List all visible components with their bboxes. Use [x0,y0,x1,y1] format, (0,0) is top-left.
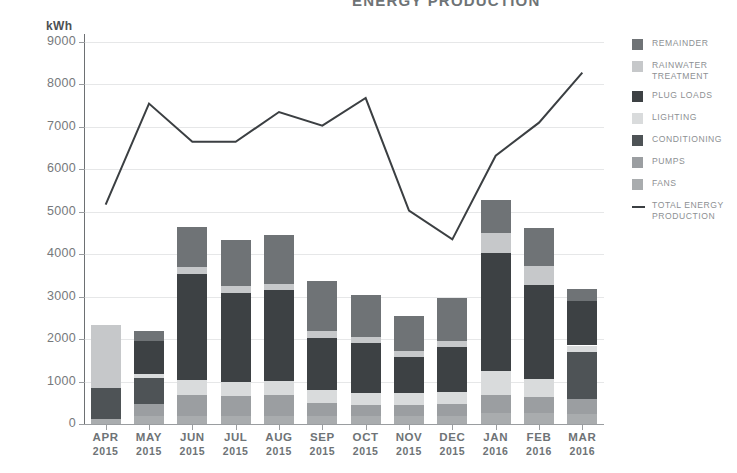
grid-line [84,424,604,425]
legend-label: CONDITIONING [652,134,737,145]
x-axis-tick-mark [149,424,150,430]
y-axis-tick-label: 7000 [26,119,76,133]
legend-item[interactable]: RAINWATER TREATMENT [632,60,737,81]
x-axis-month: OCT [353,431,379,443]
total-energy-line [84,42,604,424]
x-axis-tick-mark [279,424,280,430]
x-axis-month: FEB [527,431,552,443]
legend-swatch [632,179,643,190]
x-axis-month: DEC [439,431,465,443]
legend-item[interactable]: CONDITIONING [632,134,737,147]
chart-title: ENERGY PRODUCTION [352,0,652,9]
y-axis-tick-mark [79,339,85,340]
legend-swatch [632,61,643,72]
x-axis-month: APR [93,431,119,443]
legend-swatch [632,135,643,146]
y-axis-tick-mark [79,212,85,213]
y-axis-tick-mark [79,84,85,85]
legend-item[interactable]: PLUG LOADS [632,90,737,103]
x-axis-tick-label: MAR2016 [552,431,612,457]
y-axis-tick-label: 4000 [26,246,76,260]
y-axis-tick-label: 1000 [26,374,76,388]
legend-label: TOTAL ENERGY PRODUCTION [652,200,737,221]
y-axis-tick-label: 9000 [26,34,76,48]
y-axis-tick-label: 2000 [26,331,76,345]
legend-item[interactable]: REMAINDER [632,38,737,51]
legend-line-marker [632,206,645,208]
x-axis-month: MAR [568,431,596,443]
chart-container: ENERGY PRODUCTION kWh REMAINDERRAINWATER… [0,0,737,473]
y-axis-tick-label: 5000 [26,204,76,218]
line-series-total-energy [106,73,583,240]
x-axis-tick-mark [496,424,497,430]
legend-label: LIGHTING [652,112,737,123]
legend-item[interactable]: TOTAL ENERGY PRODUCTION [632,200,737,221]
y-axis-tick-mark [79,297,85,298]
y-axis-tick-label: 8000 [26,76,76,90]
x-axis-tick-mark [582,424,583,430]
x-axis-tick-mark [236,424,237,430]
x-axis-tick-mark [366,424,367,430]
y-axis-tick-label: 6000 [26,161,76,175]
x-axis-month: JUL [224,431,248,443]
x-axis-year: 2016 [552,445,612,457]
legend-swatch [632,39,643,50]
y-axis-tick-mark [79,42,85,43]
legend-label: RAINWATER TREATMENT [652,60,737,81]
legend-label: PUMPS [652,156,737,167]
y-axis-tick-mark [79,382,85,383]
x-axis-tick-mark [322,424,323,430]
x-axis-tick-mark [452,424,453,430]
x-axis-tick-mark [409,424,410,430]
legend-item[interactable]: PUMPS [632,156,737,169]
legend-label: REMAINDER [652,38,737,49]
legend-label: FANS [652,178,737,189]
x-axis-month: AUG [265,431,292,443]
legend-swatch [632,91,643,102]
x-axis-tick-mark [106,424,107,430]
x-axis-tick-mark [539,424,540,430]
y-axis-tick-mark [79,169,85,170]
y-axis-tick-mark [79,127,85,128]
y-axis-label: kWh [46,19,73,33]
legend-label: PLUG LOADS [652,90,737,101]
x-axis-month: JUN [180,431,205,443]
x-axis-tick-mark [192,424,193,430]
y-axis-tick-mark [79,424,85,425]
x-axis-month: MAY [136,431,162,443]
legend-item[interactable]: FANS [632,178,737,191]
x-axis-month: JAN [483,431,508,443]
y-axis-tick-label: 3000 [26,289,76,303]
legend-swatch [632,113,643,124]
legend-item[interactable]: LIGHTING [632,112,737,125]
x-axis-month: SEP [310,431,335,443]
y-axis-tick-mark [79,254,85,255]
chart-legend: REMAINDERRAINWATER TREATMENTPLUG LOADSLI… [632,38,737,230]
legend-swatch [632,157,643,168]
x-axis-month: NOV [396,431,423,443]
y-axis-tick-label: 0 [26,416,76,430]
